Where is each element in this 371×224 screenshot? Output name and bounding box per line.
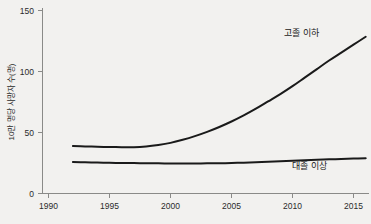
x-tick-label: 2015 xyxy=(344,201,363,211)
series-label-college-or-more: 대졸 이상 xyxy=(292,161,327,171)
y-tick-labels: 150 100 50 0 xyxy=(20,6,34,199)
line-chart: 150 100 50 0 1990 1995 2000 2005 2010 20… xyxy=(0,0,371,224)
series-group xyxy=(73,37,366,164)
y-tick-label: 150 xyxy=(20,6,34,16)
y-tick-label: 0 xyxy=(29,189,34,199)
chart-page: 150 100 50 0 1990 1995 2000 2005 2010 20… xyxy=(0,0,371,224)
x-tick-labels: 1990 1995 2000 2005 2010 2015 xyxy=(39,201,363,211)
series-label-high-school-or-less: 고졸 이하 xyxy=(284,28,320,38)
x-tick-label: 1990 xyxy=(39,201,58,211)
series-line-high-school-or-less xyxy=(73,37,366,147)
y-tick-marks xyxy=(38,11,43,194)
y-axis-title: 10만 명당 사망자 수(명) xyxy=(6,63,16,140)
y-tick-label: 100 xyxy=(20,67,34,77)
x-tick-label: 2005 xyxy=(222,201,241,211)
x-tick-label: 2010 xyxy=(283,201,302,211)
y-tick-label: 50 xyxy=(25,128,35,138)
x-tick-label: 2000 xyxy=(161,201,180,211)
x-tick-label: 1995 xyxy=(100,201,119,211)
x-tick-marks xyxy=(49,194,354,199)
